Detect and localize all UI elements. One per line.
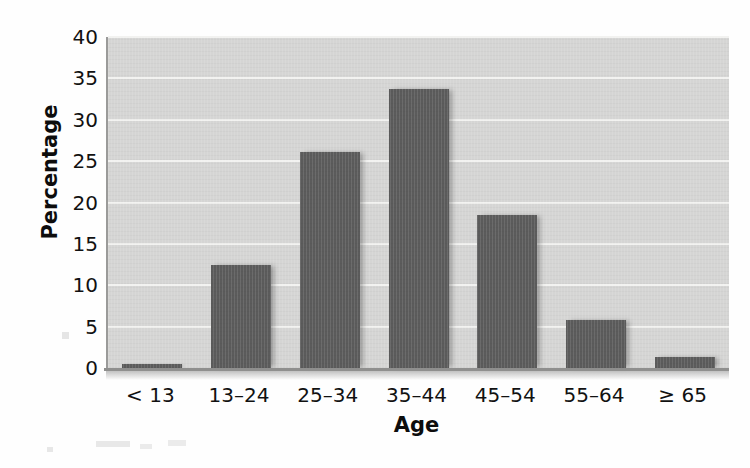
axis-floor-shadow xyxy=(106,371,729,380)
x-axis-baseline xyxy=(104,368,729,371)
x-axis-tick-label: 55–64 xyxy=(563,383,624,407)
gridline xyxy=(108,36,729,38)
x-axis-tick-label: 25–34 xyxy=(297,383,358,407)
x-axis-tick-label: 13–24 xyxy=(209,383,270,407)
bar xyxy=(655,357,715,368)
scan-artifact xyxy=(62,332,69,339)
scan-artifact xyxy=(140,444,152,449)
y-axis-tick-label: 0 xyxy=(52,356,98,380)
scan-artifact xyxy=(96,441,130,447)
x-axis-tick-label: 45–54 xyxy=(475,383,536,407)
gridline xyxy=(108,77,729,79)
x-axis-title: Age xyxy=(106,413,727,437)
y-axis-tick-label: 30 xyxy=(52,108,98,132)
y-axis-tick-label: 5 xyxy=(52,315,98,339)
x-axis-tick-label: 35–44 xyxy=(386,383,447,407)
bar-chart-figure: Percentage 0510152025303540 < 1313–2425–… xyxy=(0,0,750,468)
y-axis-tick-label: 35 xyxy=(52,66,98,90)
bar xyxy=(477,215,537,368)
plot-area xyxy=(106,37,729,368)
y-axis-tick-label: 10 xyxy=(52,273,98,297)
bar xyxy=(211,265,271,368)
x-axis-tick-labels: < 1313–2425–3435–4445–5455–64≥ 65 xyxy=(106,383,727,411)
bar xyxy=(566,320,626,368)
y-axis-tick-label: 15 xyxy=(52,232,98,256)
y-axis-tick-label: 40 xyxy=(52,25,98,49)
x-axis-tick-label: < 13 xyxy=(126,383,175,407)
scan-artifact xyxy=(168,440,186,446)
y-axis-tick-labels: 0510152025303540 xyxy=(52,37,98,368)
y-axis-tick-label: 20 xyxy=(52,191,98,215)
y-axis-tick-label: 25 xyxy=(52,149,98,173)
bar xyxy=(389,89,449,368)
scan-artifact xyxy=(47,447,53,452)
x-axis-tick-label: ≥ 65 xyxy=(658,383,707,407)
bar xyxy=(300,152,360,368)
